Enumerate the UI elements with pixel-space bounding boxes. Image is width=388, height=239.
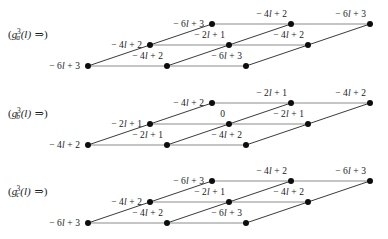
lattice-node bbox=[147, 121, 153, 127]
lattice-node bbox=[305, 121, 311, 127]
lattice-node-label: − 2l + 1 bbox=[194, 187, 225, 197]
lattice-node-label: − 4l + 2 bbox=[111, 40, 142, 50]
lattice-node-label: − 6l + 3 bbox=[49, 61, 80, 71]
lattice-node-label: − 6l + 3 bbox=[335, 166, 366, 176]
lattice-group-a: (ga3(l) ⇒)− 6l + 3− 4l + 2− 6l + 3− 4l +… bbox=[0, 0, 388, 78]
lattice-node-label: − 6l + 3 bbox=[173, 176, 204, 186]
lattice-node-label: − 4l + 2 bbox=[273, 30, 304, 40]
lattice-node bbox=[209, 100, 215, 106]
lattice-node bbox=[209, 178, 215, 184]
lattice-node bbox=[288, 21, 294, 27]
lattice-node-label: − 4l + 2 bbox=[111, 197, 142, 207]
lattice-node bbox=[243, 63, 249, 69]
lattice-node bbox=[367, 178, 373, 184]
lattice-node bbox=[226, 42, 232, 48]
lattice-node bbox=[164, 63, 170, 69]
lattice-edge-diagonal bbox=[246, 202, 308, 223]
lattice-edge-diagonal bbox=[246, 45, 308, 66]
lattice-edge-diagonal bbox=[308, 103, 370, 124]
lattice-node-label: − 4l + 2 bbox=[335, 88, 366, 98]
lattice-node bbox=[305, 199, 311, 205]
lattice-node bbox=[288, 100, 294, 106]
lattice-node-label: − 6l + 3 bbox=[173, 19, 204, 29]
lattice-node-label: 0 bbox=[220, 109, 225, 119]
lattice-node-label: − 2l + 1 bbox=[256, 88, 287, 98]
lattice-node-label: − 2l + 1 bbox=[194, 30, 225, 40]
lattice-node-label: − 4l + 2 bbox=[256, 166, 287, 176]
lattice-edge-diagonal bbox=[246, 124, 308, 145]
lattice-node bbox=[226, 121, 232, 127]
lattice-node bbox=[147, 199, 153, 205]
lattice-node bbox=[367, 100, 373, 106]
lattice-node-label: − 6l + 3 bbox=[335, 9, 366, 19]
lattice-node bbox=[85, 63, 91, 69]
lattice-node-label: − 2l + 1 bbox=[111, 119, 142, 129]
lattice-node bbox=[243, 220, 249, 226]
lattice-diagram-figure: (ga3(l) ⇒)− 6l + 3− 4l + 2− 6l + 3− 4l +… bbox=[0, 0, 388, 239]
lattice-node-label: − 4l + 2 bbox=[173, 98, 204, 108]
lattice-node bbox=[85, 142, 91, 148]
lattice-node bbox=[243, 142, 249, 148]
lattice-group-b: (gb3(l) ⇒)− 4l + 2− 2l + 1− 4l + 2− 2l +… bbox=[0, 79, 388, 157]
lattice-node bbox=[147, 42, 153, 48]
lattice-node-label: − 4l + 2 bbox=[211, 130, 242, 140]
lattice-node bbox=[226, 199, 232, 205]
lattice-node-label: − 4l + 2 bbox=[132, 208, 163, 218]
lattice-edge-diagonal bbox=[308, 181, 370, 202]
lattice-node bbox=[85, 220, 91, 226]
lattice-node-label: − 6l + 3 bbox=[211, 51, 242, 61]
lattice-node bbox=[288, 178, 294, 184]
lattice-node-label: − 2l + 1 bbox=[132, 130, 163, 140]
lattice-node-label: − 6l + 3 bbox=[49, 218, 80, 228]
lattice-node bbox=[209, 21, 215, 27]
lattice-node-label: − 4l + 2 bbox=[132, 51, 163, 61]
lattice-node-label: − 2l + 1 bbox=[273, 109, 304, 119]
lattice-node bbox=[164, 220, 170, 226]
lattice-node bbox=[164, 142, 170, 148]
lattice-node-label: − 4l + 2 bbox=[273, 187, 304, 197]
lattice-node-label: − 6l + 3 bbox=[211, 208, 242, 218]
lattice-edge-diagonal bbox=[308, 24, 370, 45]
lattice-node bbox=[367, 21, 373, 27]
lattice-node-label: − 4l + 2 bbox=[256, 9, 287, 19]
lattice-group-c: (gc3(l) ⇒)− 6l + 3− 4l + 2− 6l + 3− 4l +… bbox=[0, 157, 388, 235]
lattice-node bbox=[305, 42, 311, 48]
lattice-node-label: − 4l + 2 bbox=[49, 140, 80, 150]
